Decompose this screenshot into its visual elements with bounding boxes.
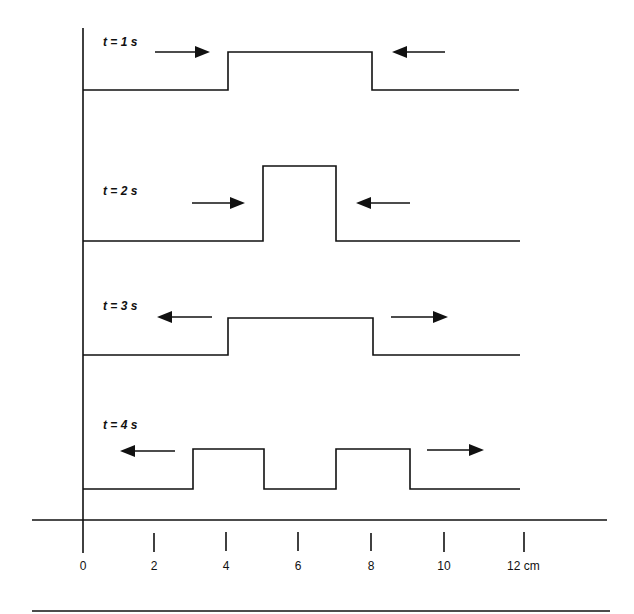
time-label: t = 3 s: [103, 299, 138, 313]
tick-label: 0: [80, 559, 87, 573]
pulse-diagram: t = 1 s t = 2 s t = 3 s t = 4 s: [0, 0, 634, 614]
pulse-profile: [83, 318, 520, 355]
time-label: t = 2 s: [103, 184, 138, 198]
x-axis-ticks: [154, 532, 524, 552]
panel-t4: t = 4 s: [83, 418, 520, 489]
pulse-profile: [83, 166, 520, 241]
arrowhead-left-icon: [120, 445, 135, 457]
tick-label: 2: [151, 559, 158, 573]
arrowhead-left-icon: [356, 197, 371, 209]
arrowhead-right-icon: [195, 46, 210, 58]
x-axis-labels: 0 2 4 6 8 10 12 cm: [80, 559, 540, 573]
panel-t3: t = 3 s: [83, 299, 520, 355]
arrowhead-left-icon: [392, 46, 407, 58]
tick-label: 10: [437, 559, 451, 573]
panel-t2: t = 2 s: [83, 166, 520, 241]
panel-t1: t = 1 s: [83, 35, 519, 90]
arrowhead-left-icon: [157, 311, 172, 323]
tick-label: 8: [368, 559, 375, 573]
arrowhead-right-icon: [469, 444, 484, 456]
arrowhead-right-icon: [230, 197, 245, 209]
time-label: t = 1 s: [103, 35, 138, 49]
time-label: t = 4 s: [103, 418, 138, 432]
tick-label: 4: [223, 559, 230, 573]
tick-label: 6: [295, 559, 302, 573]
pulse-profile: [83, 449, 520, 489]
arrowhead-right-icon: [433, 311, 448, 323]
pulse-profile: [83, 52, 519, 90]
tick-label: 12 cm: [507, 559, 540, 573]
